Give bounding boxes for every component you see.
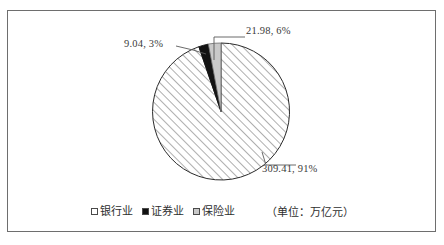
legend-label-banking: 银行业 [100, 205, 133, 217]
unit-note: （单位：万亿元） [266, 203, 354, 219]
legend-label-insurance: 保险业 [202, 205, 235, 217]
legend-label-securities: 证券业 [151, 205, 184, 217]
data-label-insurance: 21.98, 6% [246, 25, 291, 36]
chart-legend: 银行业 证券业 保险业 （单位：万亿元） [0, 202, 444, 220]
legend-item-insurance[interactable]: 保险业 [193, 205, 235, 217]
legend-swatch-insurance-icon [193, 208, 200, 215]
data-label-banking: 309.41, 91% [262, 163, 318, 174]
legend-swatch-banking-icon [91, 208, 98, 215]
legend-swatch-securities-icon [142, 208, 149, 215]
data-label-securities: 9.04, 3% [124, 38, 163, 49]
chart-figure: 21.98, 6% 9.04, 3% 309.41, 91% 银行业 证券业 保… [0, 0, 444, 245]
legend-item-banking[interactable]: 银行业 [91, 205, 133, 217]
legend-item-securities[interactable]: 证券业 [142, 205, 184, 217]
